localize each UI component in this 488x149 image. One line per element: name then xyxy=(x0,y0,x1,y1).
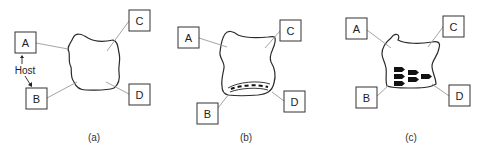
panel-b-caption: (b) xyxy=(240,132,252,143)
panel-c-marker-4 xyxy=(408,70,419,75)
panel-a-host-arrowhead-up xyxy=(20,55,24,58)
panel-b-label-d: D xyxy=(291,96,299,108)
panel-a-label-d: D xyxy=(136,89,144,101)
panel-c-marker-5 xyxy=(408,77,419,82)
panel-b: A B C D (b) xyxy=(178,20,305,143)
panel-c-label-b: B xyxy=(363,92,370,104)
panel-a-host-arrowhead-down xyxy=(28,82,32,87)
panel-a-label-c: C xyxy=(136,15,144,27)
panel-c-marker-1 xyxy=(394,67,405,72)
panel-a-label-b: B xyxy=(33,93,40,105)
panel-b-leader-d xyxy=(272,92,284,101)
panel-a-leader-a xyxy=(36,43,68,49)
panel-a: Host A B C D (a) xyxy=(15,10,150,143)
panel-b-leader-c xyxy=(265,31,280,48)
panel-a-label-a: A xyxy=(22,37,30,49)
panel-c: A B C D (c) xyxy=(346,16,470,143)
panel-b-band-lower xyxy=(230,88,268,92)
panel-b-leader-b xyxy=(218,94,229,108)
panel-c-leader-c xyxy=(428,27,443,47)
panel-c-caption: (c) xyxy=(405,132,417,143)
diagram-canvas: Host A B C D (a) A B C D (b) xyxy=(0,0,488,149)
panel-c-marker-3 xyxy=(394,81,405,86)
panel-a-caption: (a) xyxy=(88,132,100,143)
panel-b-label-c: C xyxy=(287,25,295,37)
panel-a-blob-outline xyxy=(68,34,120,90)
panel-c-leader-b xyxy=(377,86,388,96)
panel-a-leader-b xyxy=(47,82,77,98)
panel-c-leader-d xyxy=(432,84,449,96)
panel-c-label-d: D xyxy=(456,90,464,102)
panel-a-host-label: Host xyxy=(15,65,36,76)
panel-c-marker-2 xyxy=(394,74,405,79)
panel-c-markers xyxy=(394,67,432,86)
panel-c-label-a: A xyxy=(353,23,361,35)
panel-b-label-b: B xyxy=(204,108,211,120)
panel-a-host-arrow-down xyxy=(25,76,30,84)
panel-b-label-a: A xyxy=(185,32,193,44)
panel-c-marker-6 xyxy=(421,74,432,79)
panel-c-label-c: C xyxy=(450,21,458,33)
panel-c-leader-a xyxy=(367,30,391,48)
